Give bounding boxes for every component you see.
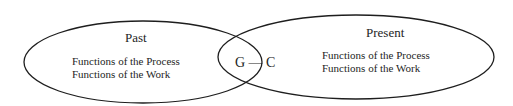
past-line-1: Functions of the Process	[72, 55, 180, 67]
present-line-1: Functions of the Process	[322, 49, 430, 61]
past-line-2: Functions of the Work	[72, 68, 170, 80]
overlap-label: G — C	[235, 55, 275, 71]
present-title: Present	[366, 25, 404, 41]
past-title: Past	[125, 30, 147, 46]
present-line-2: Functions of the Work	[322, 62, 420, 74]
venn-diagram	[0, 0, 513, 106]
